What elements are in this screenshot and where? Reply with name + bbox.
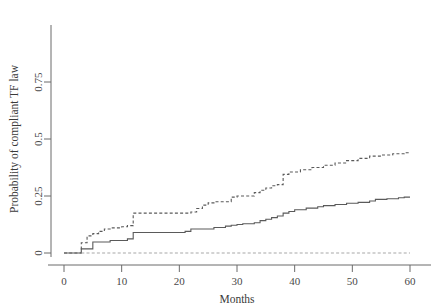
x-tick-label: 60 (405, 275, 417, 287)
x-tick-label: 30 (232, 275, 244, 287)
x-tick-label: 50 (347, 275, 359, 287)
y-tick-label: 0 (32, 250, 44, 256)
x-tick-label: 20 (174, 275, 186, 287)
y-tick-label: 0.75 (32, 72, 44, 92)
x-tick-label: 40 (289, 275, 301, 287)
x-axis-title: Months (219, 293, 255, 305)
chart-container: 00.250.50.75 0102030405060 Months Probab… (0, 0, 438, 308)
y-tick-label: 0.5 (32, 132, 44, 146)
plot-background (0, 0, 438, 308)
y-tick-label: 0.25 (32, 186, 44, 206)
y-axis-title: Probability of compliant TF law (8, 64, 21, 213)
survival-plot: 00.250.50.75 0102030405060 Months Probab… (0, 0, 438, 308)
x-tick-label: 0 (61, 275, 67, 287)
x-tick-label: 10 (116, 275, 128, 287)
